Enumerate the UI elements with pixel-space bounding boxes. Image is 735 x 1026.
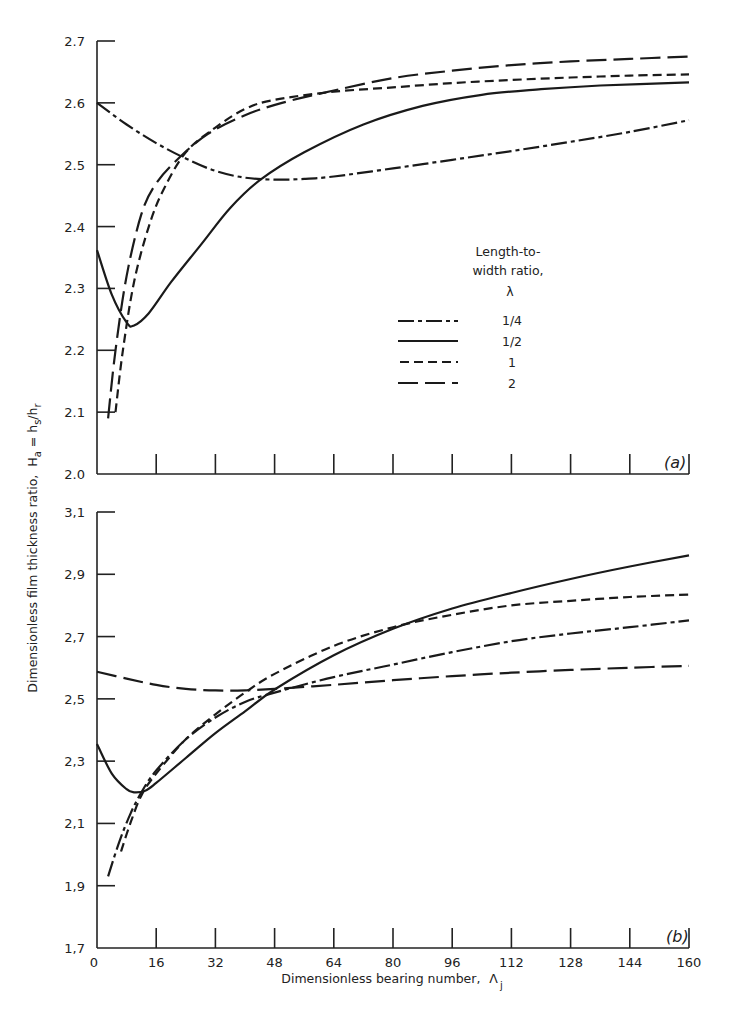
panel-a-axes: 2.02.12.22.32.42.52.62.7	[64, 34, 689, 482]
panel-b-axes: 1,71,92,12,32,52,72,93,10163248648096112…	[64, 505, 701, 970]
y-tick-label: 2.0	[64, 467, 85, 482]
y-tick-label: 2,5	[64, 692, 85, 707]
x-tick-label: 48	[266, 955, 283, 970]
panel-b-curves	[97, 555, 689, 876]
y-tick-label: 1,9	[64, 879, 85, 894]
panel-b-plot: 1,71,92,12,32,52,72,93,10163248648096112…	[64, 505, 701, 970]
curve-lambda-1-over-2	[97, 555, 689, 792]
y-tick-label: 2.1	[64, 405, 85, 420]
x-axis-title-sub: j	[499, 980, 503, 991]
x-axis-title-main: Dimensionless bearing number,	[281, 971, 480, 986]
y-axis-title-eq: = h	[25, 425, 40, 451]
x-tick-label: 64	[326, 955, 343, 970]
y-axis-title-symbol: H	[25, 457, 40, 466]
y-axis-title-slash: /h	[25, 407, 40, 419]
curve-lambda-2	[97, 666, 689, 691]
y-axis-title-main: Dimensionless film thickness ratio,	[25, 475, 40, 693]
x-tick-label: 144	[617, 955, 642, 970]
y-axis-title-sub-r: r	[32, 402, 43, 407]
x-tick-label: 96	[444, 955, 461, 970]
chart-canvas: 2.02.12.22.32.42.52.62.7 (a) Length-to- …	[0, 0, 735, 1026]
legend-entry-one: 1	[508, 355, 516, 370]
legend-entry-quarter: 1/4	[502, 313, 522, 328]
legend-title-line1: Length-to-	[476, 244, 541, 259]
curve-lambda-1-over-4	[108, 620, 689, 876]
legend-entry-two: 2	[508, 376, 516, 391]
curve-lambda-2	[108, 57, 689, 419]
y-tick-label: 2.5	[64, 158, 85, 173]
x-tick-label: 128	[558, 955, 583, 970]
y-axis-title: Dimensionless film thickness ratio, Ha =…	[25, 402, 43, 692]
panel-a-label: (a)	[664, 453, 686, 472]
panel-a-curves	[97, 57, 689, 419]
x-tick-label: 0	[90, 955, 98, 970]
y-tick-label: 2,3	[64, 754, 85, 769]
legend-title-lambda: λ	[506, 284, 514, 299]
curve-lambda-1	[121, 595, 689, 852]
y-tick-label: 3,1	[64, 505, 85, 520]
y-tick-label: 1,7	[64, 941, 85, 956]
y-tick-label: 2,9	[64, 567, 85, 582]
x-axis-title: Dimensionless bearing number, Λj	[281, 971, 502, 991]
legend-entry-half: 1/2	[502, 334, 522, 349]
y-tick-label: 2,7	[64, 630, 85, 645]
legend-title-line2: width ratio,	[472, 263, 543, 278]
y-tick-label: 2.2	[64, 343, 85, 358]
x-tick-label: 32	[207, 955, 224, 970]
y-tick-label: 2.3	[64, 281, 85, 296]
curve-lambda-1-over-2	[97, 82, 689, 326]
x-tick-label: 112	[499, 955, 524, 970]
x-tick-label: 160	[677, 955, 702, 970]
panel-b-label: (b)	[666, 927, 689, 946]
panel-a-plot: 2.02.12.22.32.42.52.62.7 (a)	[64, 34, 689, 482]
x-tick-label: 80	[385, 955, 402, 970]
x-tick-label: 16	[148, 955, 165, 970]
y-tick-label: 2.7	[64, 34, 85, 49]
legend: Length-to- width ratio, λ 1/4 1/2 1 2	[398, 244, 544, 391]
y-tick-label: 2.6	[64, 96, 85, 111]
x-axis-title-symbol: Λ	[489, 971, 498, 986]
y-tick-label: 2.4	[64, 220, 85, 235]
y-tick-label: 2,1	[64, 816, 85, 831]
